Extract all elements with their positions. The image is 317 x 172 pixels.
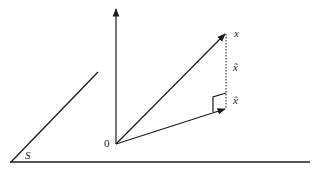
- vector-x-label: x: [233, 27, 239, 39]
- projection-diagram: 0 x x̃ x̂ S: [0, 0, 317, 172]
- vector-x-hat-arrow: [116, 109, 225, 144]
- origin-label: 0: [104, 137, 110, 149]
- vector-x-hat-label: x̂: [232, 94, 238, 106]
- subspace-label: S: [25, 149, 31, 161]
- vector-x-arrow: [116, 34, 225, 144]
- vector-x-tilde-label: x̃: [232, 61, 239, 73]
